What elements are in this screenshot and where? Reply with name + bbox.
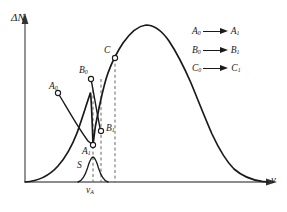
legend-entry-c: C0 C1 bbox=[192, 63, 241, 73]
arrow-right-icon bbox=[203, 64, 229, 72]
point-label-B0: B0 bbox=[79, 66, 88, 76]
marker-A1 bbox=[90, 142, 95, 147]
marker-C bbox=[112, 55, 117, 60]
arrow-right-icon bbox=[203, 46, 229, 54]
point-label-C: C bbox=[104, 46, 110, 56]
legend-c-from: C0 bbox=[192, 63, 201, 73]
point-label-B1-sub: 1 bbox=[112, 127, 115, 133]
legend-a-from-sub: 0 bbox=[198, 30, 201, 36]
arrow-right-icon bbox=[203, 27, 229, 35]
legend-c-to-sub: 1 bbox=[238, 67, 241, 73]
point-label-B1: B1 bbox=[106, 124, 115, 134]
legend-b-to: B1 bbox=[231, 45, 240, 55]
x-tick-label-sub: A bbox=[90, 189, 94, 195]
legend-c-to: C1 bbox=[231, 63, 240, 73]
point-label-C-main: C bbox=[104, 45, 110, 55]
y-axis-label: ΔN bbox=[11, 12, 25, 23]
point-label-A0: A0 bbox=[49, 82, 58, 92]
point-label-A1-sub: 1 bbox=[88, 150, 91, 156]
x-tick-label-nu-a: νA bbox=[86, 186, 94, 196]
x-axis-label: ν bbox=[271, 174, 276, 185]
legend-a-to: A1 bbox=[231, 26, 240, 36]
point-label-S: S bbox=[77, 161, 82, 171]
point-label-S-main: S bbox=[77, 160, 82, 170]
legend-entry-b: B0 B1 bbox=[192, 45, 240, 55]
point-label-A0-sub: 0 bbox=[55, 85, 58, 91]
legend-c-from-sub: 0 bbox=[198, 67, 201, 73]
legend-entry-a: A0 A1 bbox=[192, 26, 240, 36]
legend-a-from: A0 bbox=[192, 26, 201, 36]
plot-area bbox=[0, 0, 287, 212]
marker-B1 bbox=[98, 128, 103, 133]
legend-a-to-sub: 1 bbox=[237, 30, 240, 36]
point-label-A1: A1 bbox=[82, 147, 91, 157]
legend-b-to-sub: 1 bbox=[237, 49, 240, 55]
legend-b-from: B0 bbox=[192, 45, 201, 55]
point-label-B0-sub: 0 bbox=[85, 69, 88, 75]
spectral-hole-burning-figure: ΔN ν νA A0 B0 C B1 A1 S A0 A1 B0 B1 C0 C… bbox=[0, 0, 287, 212]
legend-b-from-sub: 0 bbox=[198, 49, 201, 55]
marker-B0 bbox=[88, 76, 93, 81]
